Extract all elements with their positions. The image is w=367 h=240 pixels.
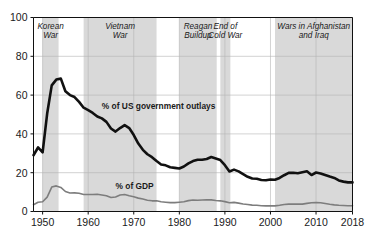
y-axis-tick-label: 80 (16, 50, 28, 62)
band-label: War (113, 31, 128, 40)
x-axis-tick-label: 1950 (31, 216, 55, 228)
x-axis-tick-label: 1970 (122, 216, 146, 228)
shaded-band (43, 18, 59, 212)
series-annotation-label: % of GDP (116, 181, 155, 191)
band-label: End of (214, 22, 238, 31)
band-label: and Iraq (299, 31, 329, 40)
band-label: Cold War (208, 31, 242, 40)
shaded-band (275, 18, 352, 212)
chart-container: 020406080100 195019601970198019902000201… (0, 0, 367, 240)
x-axis-tick-label: 2018 (341, 216, 365, 228)
band-label: Vietnam (105, 22, 135, 31)
y-axis-tick-label: 100 (10, 11, 28, 23)
y-axis-tick-label: 60 (16, 89, 28, 101)
series-annotation-label: % of US government outlays (102, 101, 216, 111)
x-axis-tick-label: 2000 (259, 216, 283, 228)
x-axis-tick-label: 1960 (77, 216, 101, 228)
band-label: Korean (37, 22, 64, 31)
shaded-band-group (43, 18, 353, 212)
y-axis-tick-label: 0 (22, 205, 28, 217)
x-axis-tick-label: 2010 (304, 216, 328, 228)
band-label: War (43, 31, 58, 40)
band-label: Wars in Afghanistan (277, 22, 350, 31)
x-axis-tick-label: 1980 (168, 216, 192, 228)
y-axis-tick-label: 40 (16, 128, 28, 140)
y-axis-tick-label: 20 (16, 167, 28, 179)
x-axis-tick-label: 1990 (213, 216, 237, 228)
y-axis-tick-labels: 020406080100 (10, 11, 28, 217)
x-axis-tick-labels: 19501960197019801990200020102018 (31, 216, 364, 228)
band-label: Reagan (184, 22, 213, 31)
shaded-band (220, 18, 230, 212)
chart-plot: 020406080100 195019601970198019902000201… (0, 0, 367, 240)
shaded-band (179, 18, 216, 212)
